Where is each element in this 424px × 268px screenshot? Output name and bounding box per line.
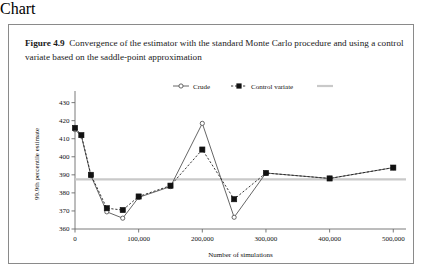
svg-text:370: 370 [59, 207, 70, 215]
series-control-variate [72, 125, 395, 212]
svg-text:430: 430 [59, 99, 70, 107]
svg-text:380: 380 [59, 189, 70, 197]
svg-text:410: 410 [59, 135, 70, 143]
svg-text:300,000: 300,000 [255, 235, 278, 243]
svg-text:400: 400 [59, 153, 70, 161]
chart-legend: CrudeControl variate [173, 83, 333, 91]
figure-caption-text: Convergence of the estimator with the st… [25, 38, 404, 62]
svg-text:0: 0 [73, 235, 77, 243]
svg-text:100,000: 100,000 [127, 235, 150, 243]
svg-text:200,000: 200,000 [191, 235, 214, 243]
svg-text:Crude: Crude [193, 83, 210, 91]
chart-svg: CrudeControl variate 3603703803904004104… [25, 77, 417, 267]
svg-text:500,000: 500,000 [382, 235, 405, 243]
figure-frame: Figure 4.9 Convergence of the estimator … [8, 24, 414, 264]
series-crude [73, 121, 395, 220]
chart-axes: 3603703803904004104204300100,000200,0003… [59, 91, 406, 243]
svg-text:360: 360 [59, 225, 70, 233]
svg-text:99.9th percentile estimate: 99.9th percentile estimate [33, 128, 41, 200]
svg-text:400,000: 400,000 [318, 235, 341, 243]
figure-caption: Figure 4.9 Convergence of the estimator … [25, 37, 415, 64]
svg-text:390: 390 [59, 171, 70, 179]
figure-page: Figure 4.9 Convergence of the estimator … [0, 18, 424, 268]
svg-text:Number of simulations: Number of simulations [208, 251, 273, 259]
figure-number: Figure 4.9 [25, 38, 65, 48]
svg-text:Control variate: Control variate [251, 83, 293, 91]
svg-text:420: 420 [59, 117, 70, 125]
chart-plot-area: CrudeControl variate 3603703803904004104… [25, 77, 417, 267]
